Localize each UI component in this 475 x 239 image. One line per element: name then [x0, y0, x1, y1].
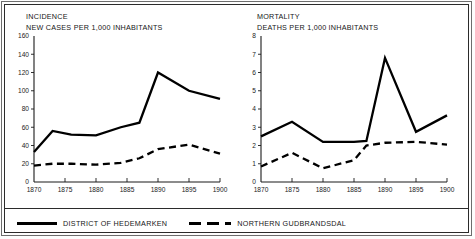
- series-line-hedemarken: [34, 73, 220, 152]
- x-tick-label: 1890: [378, 186, 393, 193]
- x-tick-label: 1870: [27, 186, 42, 193]
- chart-panel-incidence: INCIDENCE NEW CASES PER 1,000 INHABITANT…: [5, 5, 237, 205]
- x-tick-label: 1870: [254, 186, 269, 193]
- x-tick-label: 1900: [440, 186, 455, 193]
- figure-root: INCIDENCE NEW CASES PER 1,000 INHABITANT…: [0, 0, 475, 239]
- x-tick-label: 1875: [285, 186, 300, 193]
- figure-legend: DISTRICT OF HEDEMARKEN NORTHERN GUDBRAND…: [5, 208, 468, 232]
- y-tick-label: 0: [252, 178, 256, 185]
- incidence-plot: 0204060801001201401601870187518801885189…: [5, 5, 237, 205]
- legend-label-hedemarken: DISTRICT OF HEDEMARKEN: [63, 219, 167, 228]
- series-line-hedemarken: [261, 58, 447, 142]
- y-tick-label: 1: [252, 160, 256, 167]
- y-tick-label: 2: [252, 142, 256, 149]
- y-tick-label: 8: [252, 32, 256, 39]
- y-tick-label: 100: [18, 87, 29, 94]
- x-tick-label: 1890: [151, 186, 166, 193]
- y-tick-label: 20: [22, 160, 30, 167]
- y-tick-label: 6: [252, 69, 256, 76]
- y-tick-label: 0: [25, 178, 29, 185]
- series-line-gudbrandsdal: [34, 145, 220, 166]
- mortality-plot: 0123456781870187518801885189018951900: [236, 5, 468, 205]
- y-tick-label: 3: [252, 124, 256, 131]
- x-tick-label: 1880: [316, 186, 331, 193]
- x-tick-label: 1885: [347, 186, 362, 193]
- solid-line-swatch-icon: [17, 222, 57, 225]
- legend-label-gudbrandsdal: NORTHERN GUDBRANDSDAL: [237, 219, 346, 228]
- y-tick-label: 5: [252, 87, 256, 94]
- dashed-line-swatch-icon: [189, 222, 231, 225]
- x-tick-label: 1875: [58, 186, 73, 193]
- legend-item-hedemarken: DISTRICT OF HEDEMARKEN: [17, 219, 167, 228]
- y-tick-label: 7: [252, 51, 256, 58]
- y-tick-label: 60: [22, 124, 30, 131]
- y-tick-label: 140: [18, 51, 29, 58]
- legend-item-gudbrandsdal: NORTHERN GUDBRANDSDAL: [189, 219, 346, 228]
- x-tick-label: 1885: [120, 186, 135, 193]
- chart-panel-mortality: MORTALITY DEATHS PER 1,000 INHABITANTS 0…: [236, 5, 468, 205]
- x-tick-label: 1880: [89, 186, 104, 193]
- y-tick-label: 120: [18, 69, 29, 76]
- y-tick-label: 4: [252, 105, 256, 112]
- x-tick-label: 1895: [409, 186, 424, 193]
- x-tick-label: 1895: [182, 186, 197, 193]
- y-tick-label: 80: [22, 105, 30, 112]
- legend-items: DISTRICT OF HEDEMARKEN NORTHERN GUDBRAND…: [17, 219, 346, 228]
- y-tick-label: 40: [22, 142, 30, 149]
- legend-divider: [5, 208, 468, 209]
- y-tick-label: 160: [18, 32, 29, 39]
- series-line-gudbrandsdal: [261, 142, 447, 168]
- chart-panels: INCIDENCE NEW CASES PER 1,000 INHABITANT…: [5, 5, 468, 232]
- x-tick-label: 1900: [213, 186, 228, 193]
